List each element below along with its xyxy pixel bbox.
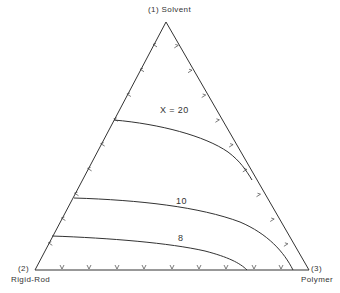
curve-x20 [114, 120, 252, 180]
curve-label-10: 10 [176, 197, 187, 206]
ternary-diagram [0, 0, 340, 293]
vertex-bottom-right-name: Polymer [301, 276, 333, 284]
bottom-edge-ticks [60, 265, 283, 269]
vertex-bottom-left-name: Rigid-Rod [11, 276, 50, 284]
curve-label-8: 8 [178, 234, 183, 243]
vertex-bottom-right-number: (3) [311, 265, 322, 273]
curve-x10 [74, 198, 293, 270]
triangle-frame [35, 22, 309, 270]
vertex-bottom-left-number: (2) [18, 265, 29, 273]
right-edge-ticks [174, 44, 288, 246]
vertex-top-name: Solvent [162, 5, 191, 14]
vertex-top-number: (1) [148, 5, 159, 14]
curve-x8 [52, 236, 247, 270]
curve-label-x20: X = 20 [160, 106, 189, 115]
vertex-top-label: (1) Solvent [148, 6, 191, 14]
